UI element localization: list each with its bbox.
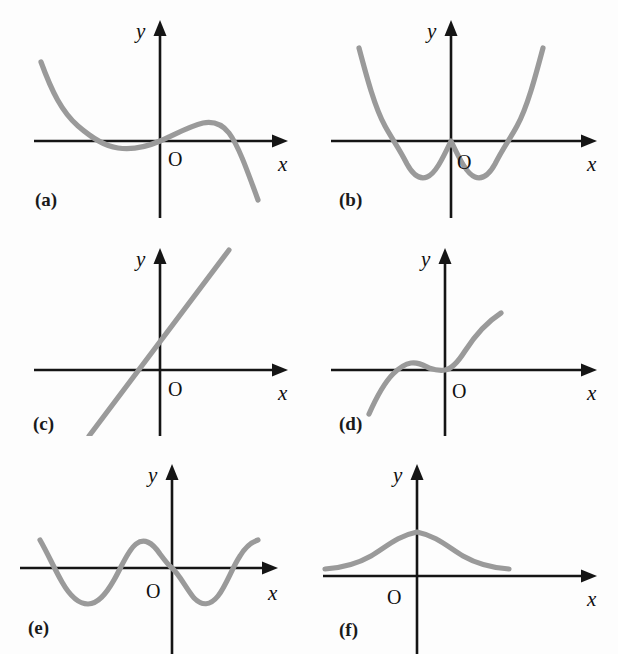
y-axis-arrow-b [445, 20, 458, 36]
panel-tag-e: (e) [28, 618, 49, 637]
panel-d: y x O (d) [309, 218, 618, 436]
x-axis-label-c: x [277, 381, 288, 405]
y-axis-arrow-d [439, 248, 452, 264]
y-axis-label-d: y [419, 247, 431, 271]
x-axis-label-b: x [586, 152, 597, 176]
x-axis-arrow-c [272, 364, 288, 377]
x-axis-label-a: x [277, 152, 288, 176]
y-axis-label-c: y [134, 247, 146, 271]
y-axis-label-f: y [391, 463, 403, 487]
x-axis-label-d: x [586, 381, 597, 405]
panel-e: y x O (e) [0, 436, 309, 654]
origin-label-c: O [168, 378, 182, 400]
curve-d [369, 313, 501, 414]
y-axis-label-e: y [146, 463, 158, 487]
origin-label-b: O [457, 151, 471, 173]
x-axis-label-f: x [586, 587, 597, 611]
origin-label-f: O [387, 586, 401, 608]
y-axis-arrow-e [166, 464, 179, 480]
panel-tag-a: (a) [35, 190, 57, 209]
y-axis-arrow-f [411, 464, 424, 480]
panel-f: y x O (f) [309, 436, 618, 654]
panel-a: y x O (a) [0, 0, 309, 218]
y-axis-label-b: y [425, 19, 437, 43]
y-axis-label-a: y [134, 19, 146, 43]
origin-label-d: O [452, 380, 466, 402]
curve-a [41, 62, 258, 200]
panel-b: y x O (b) [309, 0, 618, 218]
x-axis-arrow-e [262, 562, 278, 575]
origin-label-e: O [146, 580, 160, 602]
panel-c: y x O (c) [0, 218, 309, 436]
x-axis-arrow-d [581, 364, 597, 377]
y-axis-arrow-c [154, 248, 167, 264]
panel-tag-b: (b) [339, 190, 362, 209]
x-axis-arrow-f [581, 570, 597, 583]
panel-tag-f: (f) [339, 620, 358, 639]
x-axis-arrow-a [272, 135, 288, 148]
panel-tag-d: (d) [339, 414, 362, 433]
panel-tag-c: (c) [33, 414, 54, 433]
x-axis-label-e: x [267, 581, 278, 605]
y-axis-arrow-a [154, 20, 167, 36]
x-axis-arrow-b [581, 135, 597, 148]
origin-label-a: O [168, 148, 182, 170]
figure-grid: y x O (a) y x O (b) y x O [0, 0, 618, 654]
